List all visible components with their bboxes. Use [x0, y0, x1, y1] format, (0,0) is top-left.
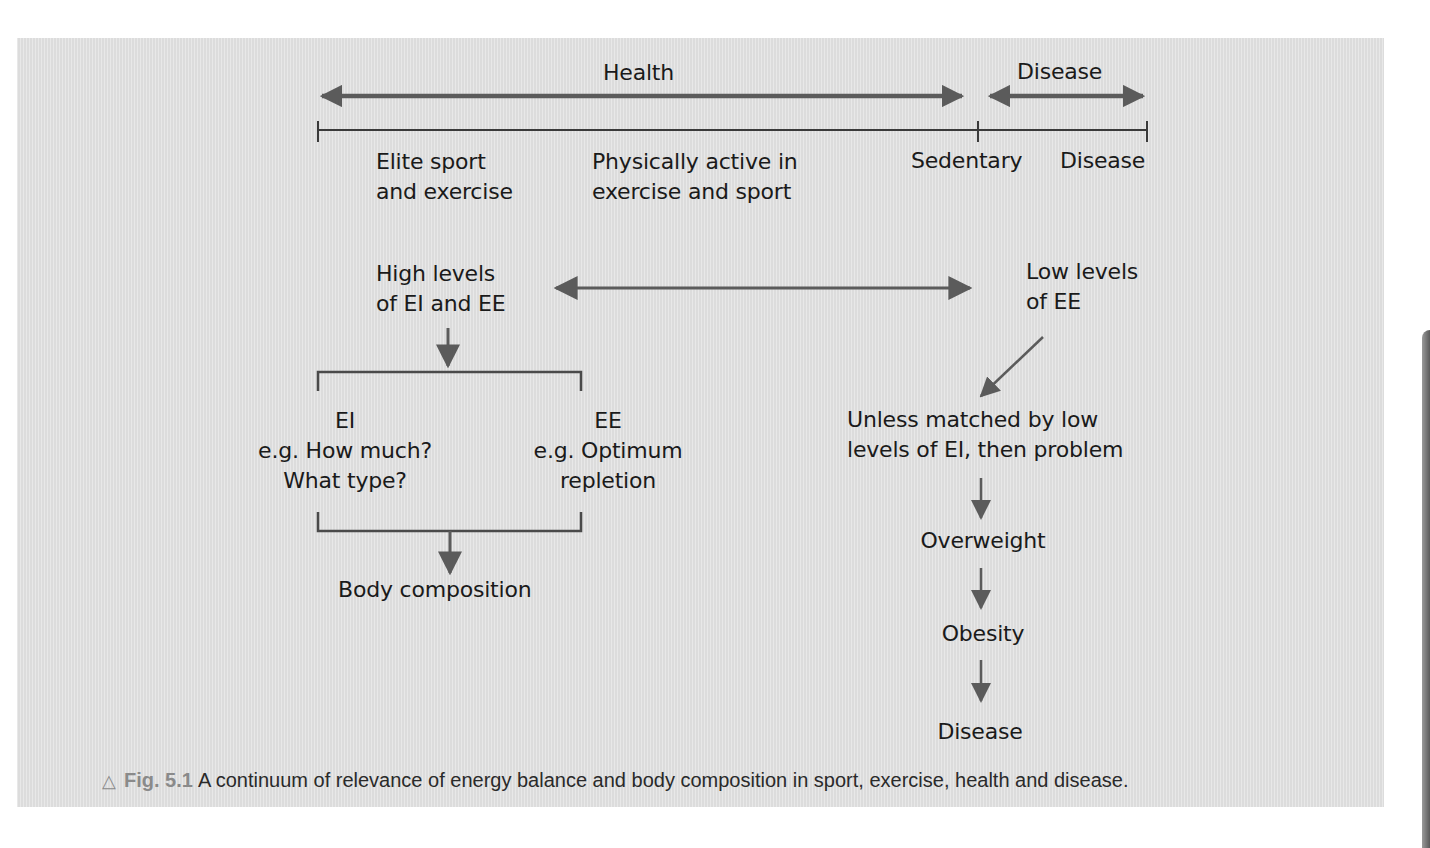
caption-text: A continuum of relevance of energy balan… [198, 769, 1129, 791]
top-bracket [318, 372, 581, 391]
disease-final-label: Disease [890, 717, 1070, 747]
low-levels-label: Low levelsof EE [1026, 257, 1138, 317]
ei-title: EI [335, 408, 355, 433]
health-label: Health [603, 58, 674, 88]
body-composition-label: Body composition [338, 575, 531, 605]
sedentary-label: Sedentary [911, 146, 1022, 176]
ei-block: EIe.g. How much?What type? [240, 406, 450, 496]
ee-title: EE [594, 408, 621, 433]
diagonal-arrow [981, 337, 1043, 396]
disease-scale-label: Disease [1060, 146, 1145, 176]
obesity-label: Obesity [893, 619, 1073, 649]
continuum-scale-line [318, 121, 1147, 142]
disease-top-label: Disease [1017, 57, 1102, 87]
overweight-label: Overweight [893, 526, 1073, 556]
triangle-outline-icon: △ [102, 771, 116, 791]
high-levels-label: High levelsof EI and EE [376, 259, 505, 319]
condition-label: Unless matched by lowlevels of EI, then … [847, 405, 1123, 465]
ee-block: EEe.g. Optimumrepletion [512, 406, 704, 496]
figure-number: Fig. 5.1 [124, 769, 193, 791]
figure-caption: △Fig. 5.1A continuum of relevance of ene… [102, 766, 1128, 795]
bottom-bracket [318, 512, 581, 531]
diagram-graphics [0, 0, 1430, 848]
elite-label: Elite sportand exercise [376, 147, 513, 207]
active-label: Physically active inexercise and sport [592, 147, 798, 207]
